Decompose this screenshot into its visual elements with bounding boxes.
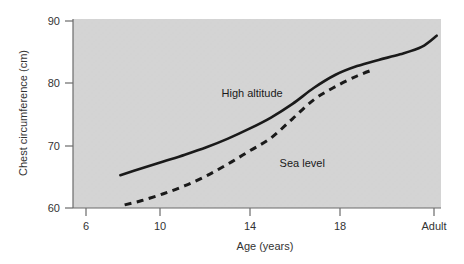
x-axis-ticks	[86, 208, 434, 216]
y-axis-ticks	[65, 21, 73, 208]
growth-chart: 90 80 70 60 6 10 14 18 Adult Age (years)…	[0, 0, 464, 264]
plot-texture	[73, 19, 441, 208]
annotation-high-altitude: High altitude	[222, 87, 283, 99]
y-axis-title: Chest circumference (cm)	[17, 50, 29, 176]
y-tick-label-80: 80	[48, 77, 60, 89]
chart-figure: 90 80 70 60 6 10 14 18 Adult Age (years)…	[0, 0, 464, 264]
x-axis-title: Age (years)	[237, 240, 294, 252]
y-tick-label-90: 90	[48, 15, 60, 27]
x-tick-label-6: 6	[83, 220, 89, 232]
x-tick-label-adult: Adult	[421, 220, 446, 232]
x-tick-label-10: 10	[154, 220, 166, 232]
y-tick-label-70: 70	[48, 140, 60, 152]
x-tick-label-14: 14	[244, 220, 256, 232]
y-tick-label-60: 60	[48, 202, 60, 214]
annotation-sea-level: Sea level	[280, 157, 325, 169]
x-tick-label-18: 18	[334, 220, 346, 232]
